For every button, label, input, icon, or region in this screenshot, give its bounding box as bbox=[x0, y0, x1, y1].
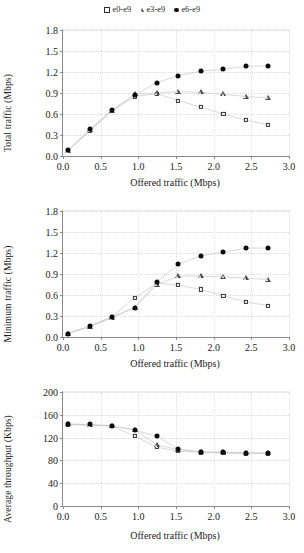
data-point-e6-e9 bbox=[198, 253, 203, 258]
data-point-e0-e9 bbox=[199, 105, 203, 109]
data-point-e6-e9 bbox=[88, 127, 93, 132]
data-point-e3-e9 bbox=[243, 94, 249, 99]
x-axis-tick-label: 0.5 bbox=[94, 337, 107, 353]
data-point-e3-e9 bbox=[198, 273, 204, 278]
plot-area: 0.00.30.60.91.21.51.80.00.51.01.52.02.53… bbox=[62, 29, 290, 157]
legend-item-e0-e9: e0-e9 bbox=[104, 6, 131, 14]
chart-panel-average-throughput: Average throughput (Kbps) 04080120160200… bbox=[0, 384, 304, 553]
data-point-e3-e9 bbox=[265, 277, 271, 282]
y-axis-title: Average throughput (Kbps) bbox=[0, 384, 15, 553]
data-point-e6-e9 bbox=[176, 447, 181, 452]
x-axis-tick-label: 2.0 bbox=[207, 156, 220, 172]
data-point-e0-e9 bbox=[132, 296, 136, 300]
data-point-e0-e9 bbox=[266, 303, 270, 307]
data-point-e6-e9 bbox=[88, 323, 93, 328]
x-axis-tick-label: 1.0 bbox=[132, 156, 145, 172]
data-point-e6-e9 bbox=[265, 63, 270, 68]
legend-label: e3-e9 bbox=[147, 6, 166, 14]
data-point-e0-e9 bbox=[244, 118, 248, 122]
x-axis-tick-label: 1.5 bbox=[170, 337, 183, 353]
series-trend-line bbox=[68, 94, 268, 151]
y-axis-tick-label: 1.8 bbox=[46, 206, 64, 217]
data-point-e6-e9 bbox=[65, 148, 70, 153]
data-point-e3-e9 bbox=[265, 95, 271, 100]
open-square-marker-icon bbox=[104, 7, 110, 13]
x-axis-tick-label: 2.0 bbox=[207, 337, 220, 353]
data-point-e6-e9 bbox=[109, 423, 114, 428]
chart-panel-minimum-traffic: Minimum traffic (Mbps) 0.00.30.60.91.21.… bbox=[0, 203, 304, 384]
x-axis-tick-label: 1.5 bbox=[170, 506, 183, 522]
data-point-e6-e9 bbox=[155, 434, 160, 439]
x-axis-title: Offered traffic (Mbps) bbox=[62, 358, 288, 369]
data-point-e6-e9 bbox=[176, 262, 181, 267]
y-axis-tick-label: 1.5 bbox=[46, 46, 64, 57]
data-point-e0-e9 bbox=[221, 294, 225, 298]
y-axis-tick-label: 40 bbox=[48, 478, 63, 489]
y-axis-title: Total traffic (Mbps) bbox=[0, 22, 15, 203]
data-point-e0-e9 bbox=[176, 99, 180, 103]
legend-item-e3-e9: e3-e9 bbox=[140, 6, 165, 14]
data-point-e6-e9 bbox=[65, 331, 70, 336]
data-point-e6-e9 bbox=[198, 69, 203, 74]
y-axis-tick-label: 0.3 bbox=[46, 130, 64, 141]
x-axis-tick-label: 0.0 bbox=[57, 506, 70, 522]
x-axis-tick-label: 0.5 bbox=[94, 506, 107, 522]
series-trend-line bbox=[68, 283, 268, 333]
x-axis-tick-label: 2.0 bbox=[207, 506, 220, 522]
data-point-e3-e9 bbox=[243, 275, 249, 280]
y-axis-tick-label: 120 bbox=[43, 432, 63, 443]
x-gridline bbox=[251, 392, 252, 506]
data-point-e0-e9 bbox=[176, 283, 180, 287]
legend-label: e0-e9 bbox=[112, 6, 131, 14]
y-axis-tick-label: 160 bbox=[43, 409, 63, 420]
data-point-e3-e9 bbox=[198, 89, 204, 94]
series-trend-line bbox=[68, 92, 268, 152]
data-point-e6-e9 bbox=[244, 64, 249, 69]
data-point-e6-e9 bbox=[88, 422, 93, 427]
y-axis-tick-label: 0.6 bbox=[46, 290, 64, 301]
data-point-e3-e9 bbox=[175, 273, 181, 278]
y-axis-tick-label: 200 bbox=[43, 387, 63, 398]
data-point-e6-e9 bbox=[155, 80, 160, 85]
data-point-e3-e9 bbox=[154, 442, 160, 447]
y-axis-tick-label: 0.3 bbox=[46, 311, 64, 322]
x-axis-tick-label: 3.0 bbox=[283, 156, 296, 172]
x-gridline bbox=[214, 211, 215, 337]
data-point-e6-e9 bbox=[65, 421, 70, 426]
x-axis-tick-label: 2.5 bbox=[245, 337, 258, 353]
data-point-e0-e9 bbox=[244, 300, 248, 304]
x-axis-tick-label: 0.0 bbox=[57, 337, 70, 353]
x-axis-tick-label: 2.5 bbox=[245, 506, 258, 522]
x-axis-title: Offered traffic (Mbps) bbox=[62, 177, 288, 188]
chart-legend: e0-e9 e3-e9 e6-e9 bbox=[0, 6, 304, 14]
series-trend-line bbox=[68, 276, 268, 333]
plot-area: 0.00.30.60.91.21.51.80.00.51.01.52.02.53… bbox=[62, 210, 290, 338]
data-point-e6-e9 bbox=[198, 449, 203, 454]
x-axis-tick-label: 2.5 bbox=[245, 156, 258, 172]
data-point-e6-e9 bbox=[155, 279, 160, 284]
data-point-e6-e9 bbox=[132, 428, 137, 433]
legend-label: e6-e9 bbox=[181, 6, 200, 14]
x-gridline bbox=[138, 30, 139, 156]
x-gridline bbox=[251, 211, 252, 337]
y-axis-tick-label: 1.2 bbox=[46, 248, 64, 259]
x-gridline bbox=[138, 211, 139, 337]
series-trend-line bbox=[68, 248, 268, 333]
series-trend-line bbox=[68, 424, 268, 453]
data-point-e6-e9 bbox=[244, 450, 249, 455]
series-trend-line bbox=[68, 424, 268, 453]
figure-container: e0-e9 e3-e9 e6-e9 Total traffic (Mbps) 0… bbox=[0, 0, 304, 553]
data-point-e3-e9 bbox=[154, 90, 160, 95]
x-gridline bbox=[214, 30, 215, 156]
data-point-e6-e9 bbox=[109, 314, 114, 319]
data-point-e3-e9 bbox=[220, 91, 226, 96]
data-point-e6-e9 bbox=[221, 450, 226, 455]
data-point-e6-e9 bbox=[132, 93, 137, 98]
x-axis-tick-label: 1.0 bbox=[132, 337, 145, 353]
data-point-e0-e9 bbox=[221, 112, 225, 116]
x-axis-tick-label: 3.0 bbox=[283, 506, 296, 522]
x-gridline bbox=[251, 30, 252, 156]
legend-item-e6-e9: e6-e9 bbox=[174, 6, 200, 14]
data-point-e3-e9 bbox=[175, 89, 181, 94]
data-point-e6-e9 bbox=[244, 246, 249, 251]
